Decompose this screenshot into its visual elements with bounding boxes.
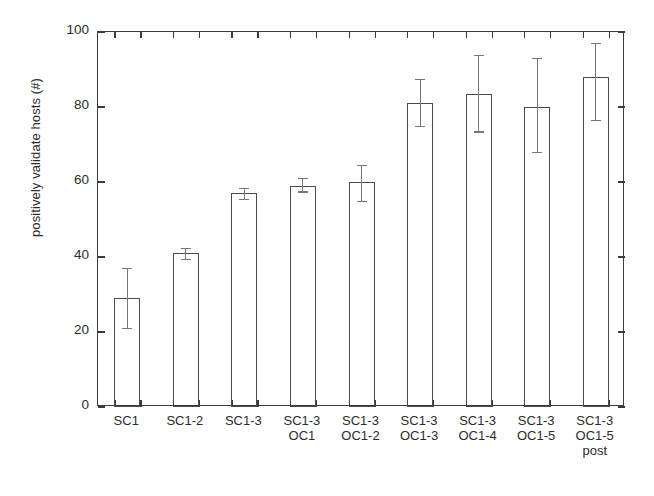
error-bar-line (127, 268, 128, 328)
error-bar-cap (532, 58, 542, 59)
x-tick-mark (199, 400, 200, 407)
x-tick-mark (433, 400, 434, 407)
error-bar-line (537, 58, 538, 152)
x-tick-mark (433, 32, 434, 38)
y-axis-label: positively validate hosts (#) (28, 28, 43, 288)
error-bar-line (302, 178, 303, 191)
error-bar-cap (122, 268, 132, 269)
x-tick-mark (316, 32, 317, 38)
x-tick-mark (609, 32, 610, 38)
chart-figure: positively validate hosts (#) 0204060801… (0, 0, 654, 496)
x-tick-mark (257, 32, 258, 38)
plot-area (97, 31, 624, 406)
y-tick-label: 100 (45, 22, 89, 37)
x-tick-mark (375, 400, 376, 407)
y-tick-mark (618, 181, 625, 182)
x-tick-mark (316, 400, 317, 407)
error-bar-line (595, 43, 596, 120)
x-tick-mark (199, 32, 200, 38)
x-tick-mark (550, 32, 551, 38)
y-tick-mark (98, 406, 105, 407)
x-tick-mark (609, 400, 610, 407)
y-tick-mark (98, 106, 105, 107)
error-bar-cap (181, 248, 191, 249)
x-tick-label: SC1-3 OC1-5 post (561, 413, 629, 458)
error-bar-cap (122, 328, 132, 329)
error-bar-cap (591, 43, 601, 44)
error-bar-cap (532, 152, 542, 153)
error-bar-cap (415, 79, 425, 80)
error-bar-cap (474, 131, 484, 132)
bar (173, 253, 199, 407)
x-tick-mark (524, 32, 525, 38)
error-bar-cap (591, 120, 601, 121)
y-tick-label: 60 (45, 172, 89, 187)
error-bar-line (185, 248, 186, 259)
bar (583, 77, 609, 407)
error-bar-cap (357, 165, 367, 166)
x-tick-mark (583, 32, 584, 38)
y-tick-mark (98, 256, 105, 257)
y-tick-mark (618, 406, 625, 407)
error-bar-cap (357, 201, 367, 202)
bar (407, 103, 433, 407)
y-tick-label: 0 (45, 397, 89, 412)
error-bar-cap (474, 55, 484, 56)
bar (290, 186, 316, 407)
error-bar-line (478, 55, 479, 132)
y-tick-mark (618, 256, 625, 257)
x-tick-mark (492, 400, 493, 407)
bar (349, 182, 375, 407)
error-bar-cap (298, 178, 308, 179)
bar (466, 94, 492, 407)
x-tick-mark (349, 32, 350, 38)
error-bar-cap (181, 259, 191, 260)
x-tick-mark (140, 400, 141, 407)
x-tick-mark (114, 32, 115, 38)
x-tick-mark (231, 32, 232, 38)
error-bar-line (420, 79, 421, 126)
error-bar-line (361, 165, 362, 201)
x-tick-mark (257, 400, 258, 407)
error-bar-line (244, 188, 245, 199)
y-tick-mark (618, 31, 625, 32)
y-tick-mark (618, 106, 625, 107)
y-tick-label: 40 (45, 247, 89, 262)
bar (231, 193, 257, 407)
x-tick-mark (407, 32, 408, 38)
x-tick-mark (290, 32, 291, 38)
y-tick-mark (98, 181, 105, 182)
y-tick-mark (98, 31, 105, 32)
x-tick-mark (140, 32, 141, 38)
y-tick-label: 80 (45, 97, 89, 112)
error-bar-cap (415, 126, 425, 127)
error-bar-cap (239, 199, 249, 200)
y-tick-mark (98, 331, 105, 332)
x-tick-mark (173, 32, 174, 38)
y-tick-mark (618, 331, 625, 332)
error-bar-cap (298, 191, 308, 192)
error-bar-cap (239, 188, 249, 189)
x-tick-mark (375, 32, 376, 38)
y-tick-label: 20 (45, 322, 89, 337)
x-tick-mark (550, 400, 551, 407)
x-tick-mark (492, 32, 493, 38)
x-tick-mark (466, 32, 467, 38)
